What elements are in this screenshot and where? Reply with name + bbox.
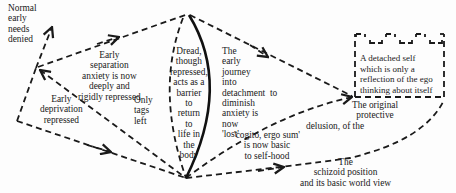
label-schizoid-position: The schizoid position and its basic worl… [300, 157, 391, 188]
label-original-protective: The original protective [352, 100, 398, 121]
label-early-journey: The early journey into detachment to dim… [222, 46, 277, 140]
arrow-up-normal-needs [36, 27, 52, 68]
label-detached-self: A detached self which is only a reflecti… [360, 53, 433, 95]
label-only-tags-left: Only tags left [134, 95, 153, 126]
schizoid-position-diagram: Normal early needs denied Early separati… [0, 0, 456, 193]
label-dread: Dread, though repressed, acts as a barri… [170, 46, 208, 160]
label-early-separation: Early separation anxiety is now deeply a… [78, 50, 141, 102]
label-early-deprivation: Early deprivation repressed [40, 94, 83, 125]
label-cogito: 'cogito, ergo sum' is now basic to self-… [234, 130, 300, 161]
line-corner-vertical [17, 68, 36, 121]
arrow-lower-left [87, 145, 111, 152]
box-top-battlements [356, 34, 444, 43]
label-delusion-of-the: delusion, of the [306, 121, 364, 131]
label-normal-needs-denied: Normal early needs denied [8, 3, 37, 45]
